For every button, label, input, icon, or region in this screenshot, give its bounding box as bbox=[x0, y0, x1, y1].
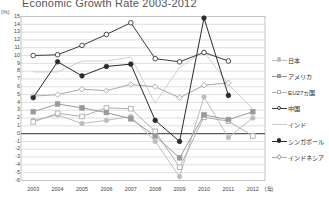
x-tick-label: 2006 bbox=[100, 186, 112, 192]
legend-marker-icon bbox=[272, 104, 287, 114]
legend-item-3[interactable]: 中国 bbox=[272, 101, 329, 117]
x-tick-label: 2009 bbox=[174, 186, 186, 192]
legend-marker-icon bbox=[272, 120, 287, 130]
legend-marker-icon bbox=[272, 152, 287, 162]
x-tick-label: 2003 bbox=[27, 186, 39, 192]
legend-item-label: EU27ヵ国 bbox=[288, 89, 315, 96]
chart-legend: 日本アメリカEU27ヵ国中国インドシンガポールインドネシア bbox=[272, 52, 329, 165]
x-tick-label: 2011 bbox=[223, 186, 235, 192]
legend-item-0[interactable]: 日本 bbox=[272, 52, 329, 68]
x-axis-unit-label: (年) bbox=[265, 186, 274, 192]
legend-item-label: アメリカ bbox=[288, 73, 312, 80]
legend-item-6[interactable]: インドネシア bbox=[272, 149, 329, 165]
legend-item-label: インドネシア bbox=[288, 154, 324, 161]
legend-item-4[interactable]: インド bbox=[272, 117, 329, 133]
legend-item-label: シンガポール bbox=[288, 138, 324, 145]
legend-item-label: 日本 bbox=[288, 57, 300, 64]
legend-item-5[interactable]: シンガポール bbox=[272, 133, 329, 149]
economic-growth-chart: Economic Growth Rate 2003-2012 (%) 15141… bbox=[0, 0, 329, 206]
legend-item-2[interactable]: EU27ヵ国 bbox=[272, 84, 329, 100]
legend-item-label: インド bbox=[288, 121, 306, 128]
legend-marker-icon bbox=[272, 55, 287, 65]
x-tick-label: 2012 bbox=[247, 186, 259, 192]
x-tick-label: 2010 bbox=[198, 186, 210, 192]
x-tick-label: 2007 bbox=[125, 186, 137, 192]
legend-marker-icon bbox=[272, 87, 287, 97]
x-tick-label: 2008 bbox=[149, 186, 161, 192]
x-tick-label: 2004 bbox=[52, 186, 64, 192]
legend-marker-icon bbox=[272, 71, 287, 81]
legend-item-label: 中国 bbox=[288, 105, 300, 112]
x-tick-label: 2005 bbox=[76, 186, 88, 192]
legend-marker-icon bbox=[272, 136, 287, 146]
legend-item-1[interactable]: アメリカ bbox=[272, 68, 329, 84]
